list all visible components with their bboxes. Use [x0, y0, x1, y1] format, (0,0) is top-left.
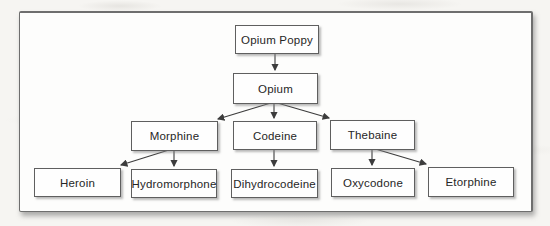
scanned-page: Opium Poppy Opium Morphine Codeine Theba…: [0, 0, 550, 226]
node-thebaine: Thebaine: [330, 120, 415, 150]
node-etorphine: Etorphine: [428, 167, 514, 197]
node-hydromorphone: Hydromorphone: [131, 169, 217, 198]
node-oxycodone: Oxycodone: [331, 168, 415, 197]
node-heroin: Heroin: [34, 168, 121, 197]
node-opium-poppy: Opium Poppy: [235, 25, 319, 54]
node-opium: Opium: [233, 73, 318, 104]
node-morphine: Morphine: [131, 121, 218, 151]
node-dihydrocodeine: Dihydrocodeine: [231, 169, 318, 198]
node-codeine: Codeine: [233, 121, 317, 150]
